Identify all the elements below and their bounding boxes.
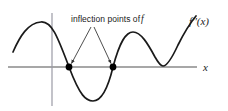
inflection-points-figure: inflection points off f''(x) x — [0, 0, 228, 111]
second-derivative-curve — [13, 16, 196, 101]
curve-label-f-double-prime: f''(x) — [189, 16, 209, 27]
arrow-to-left-inflection — [72, 27, 92, 64]
inflection-annotation-text: inflection points of — [71, 14, 140, 24]
inflection-point-left-marker — [66, 64, 73, 71]
arrow-to-right-inflection — [94, 27, 111, 64]
inflection-annotation-function-variable: f — [140, 14, 144, 24]
inflection-points-annotation: inflection points off — [71, 15, 144, 25]
x-axis-label: x — [203, 62, 208, 73]
inflection-point-right-marker — [110, 64, 117, 71]
